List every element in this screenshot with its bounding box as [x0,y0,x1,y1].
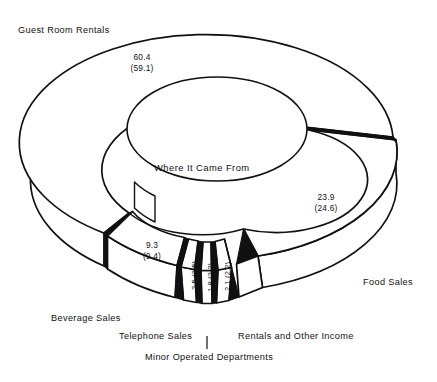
value-guest-room-rentals-prior: (59.1) [112,63,172,74]
value-food-sales-current: 23.9 [296,192,356,203]
value-telephone-sales: 2.5 (2.5) [190,261,199,290]
value-beverage-sales-current: 9.3 [128,240,176,251]
pie-chart: Guest Room Rentals 60.4 (59.1) Where It … [0,0,437,382]
value-minor-operated-departments: 1.8 (2.2) [206,263,215,292]
slice-wall-food-sales-front [237,256,263,297]
label-beverage-sales: Beverage Sales [51,313,121,324]
label-minor-operated-departments: Minor Operated Departments [145,352,273,363]
value-food-sales-prior: (24.6) [296,203,356,214]
chart-center-title: Where It Came From [154,162,250,173]
label-telephone-sales: Telephone Sales [119,331,192,342]
value-beverage-sales-prior: (9.4) [128,251,176,262]
label-food-sales: Food Sales [363,277,413,288]
donut-chart-graphic [0,0,437,382]
label-guest-room-rentals: Guest Room Rentals [18,25,110,36]
value-guest-room-rentals-current: 60.4 [112,52,172,63]
label-rentals-and-other-income: Rentals and Other Income [238,331,354,342]
value-rentals-other-income: 2.1 (2.2) [223,262,232,291]
